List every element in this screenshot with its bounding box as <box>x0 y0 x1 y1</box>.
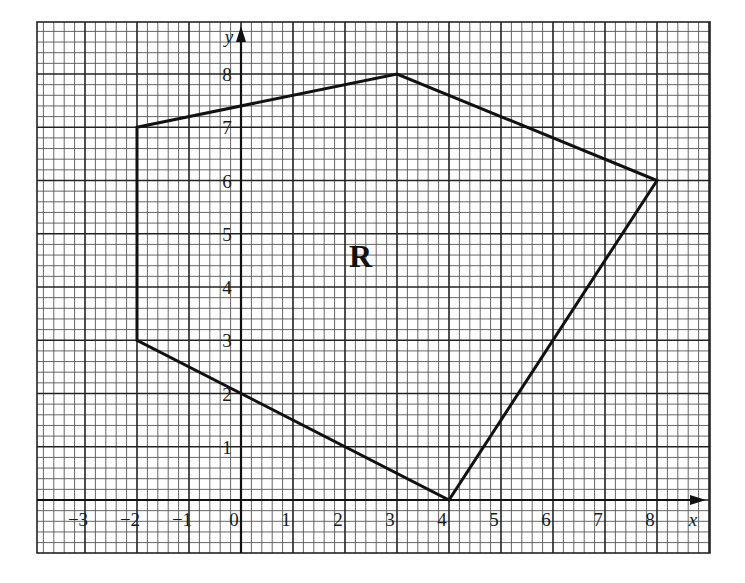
y-tick-label: 3 <box>222 330 232 351</box>
y-tick-label: 2 <box>222 384 232 405</box>
x-tick-label: 4 <box>437 509 447 530</box>
x-tick-label: −2 <box>120 509 140 530</box>
x-tick-label: −3 <box>68 509 88 530</box>
x-tick-label: 5 <box>489 509 499 530</box>
x-tick-label: 6 <box>541 509 551 530</box>
axis-tick-labels: −3−2−101234567812345678xy <box>68 26 698 530</box>
y-tick-label: 7 <box>222 117 232 138</box>
x-tick-label: −1 <box>172 509 192 530</box>
x-axis-arrow-icon <box>690 495 706 505</box>
y-tick-label: 1 <box>222 437 232 458</box>
y-tick-label: 8 <box>222 64 232 85</box>
y-tick-label: 4 <box>222 277 232 298</box>
region-label: R <box>349 238 373 274</box>
x-axis-label: x <box>688 509 698 530</box>
x-tick-label: 0 <box>229 509 239 530</box>
x-tick-label: 7 <box>593 509 603 530</box>
coordinate-graph: −3−2−101234567812345678xy R <box>0 0 745 583</box>
x-tick-label: 1 <box>281 509 291 530</box>
y-axis-label: y <box>223 26 234 47</box>
x-tick-label: 2 <box>333 509 343 530</box>
x-tick-label: 8 <box>645 509 655 530</box>
x-tick-label: 3 <box>385 509 395 530</box>
y-tick-label: 6 <box>222 171 232 192</box>
y-tick-label: 5 <box>222 224 232 245</box>
y-axis-arrow-icon <box>236 26 246 42</box>
